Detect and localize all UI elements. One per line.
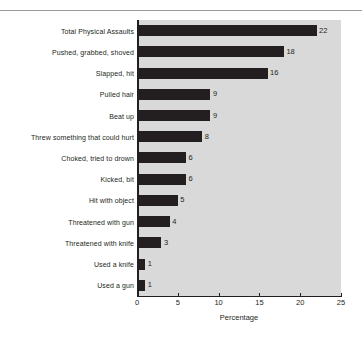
- x-tick-mark: [219, 293, 220, 297]
- bar: [137, 152, 186, 163]
- bar-row: Threatened with knife3: [0, 232, 362, 253]
- bar-row: Hit with object5: [0, 190, 362, 211]
- category-label: Slapped, hit: [96, 70, 134, 77]
- bar: [137, 259, 145, 270]
- bar-value-label: 6: [188, 175, 192, 183]
- x-tick-label: 10: [214, 299, 222, 307]
- bar: [137, 46, 284, 57]
- category-label: Pulled hair: [100, 91, 134, 98]
- bar-value-label: 16: [270, 69, 278, 77]
- bar-track: 3: [137, 232, 341, 253]
- category-label: Used a gun: [97, 282, 134, 289]
- bar-track: 4: [137, 211, 341, 232]
- category-label: Used a knife: [94, 261, 134, 268]
- bar: [137, 110, 210, 121]
- x-axis-title-text: Percentage: [220, 313, 258, 322]
- category-label: Pushed, grabbed, shoved: [52, 48, 134, 55]
- bar-track: 6: [137, 169, 341, 190]
- bar: [137, 25, 317, 36]
- bar-track: 8: [137, 126, 341, 147]
- bar-track: 18: [137, 41, 341, 62]
- category-label: Choked, tried to drown: [61, 154, 134, 161]
- chart-figure: Total Physical Assaults22Pushed, grabbed…: [0, 0, 362, 352]
- bar-value-label: 22: [319, 27, 327, 35]
- x-tick-mark: [300, 293, 301, 297]
- bar-row: Kicked, bit6: [0, 169, 362, 190]
- bar-row: Total Physical Assaults22: [0, 20, 362, 41]
- bar-value-label: 4: [172, 218, 176, 226]
- x-axis-title: Percentage: [0, 314, 362, 322]
- bar-value-label: 18: [286, 48, 294, 56]
- bar-row: Beat up9: [0, 105, 362, 126]
- category-label: Beat up: [109, 112, 134, 119]
- bar-value-label: 1: [148, 282, 152, 290]
- bar-value-label: 5: [180, 197, 184, 205]
- x-tick-mark: [137, 293, 138, 297]
- bar-value-label: 8: [205, 133, 209, 141]
- bar: [137, 280, 145, 291]
- bar-row: Pulled hair9: [0, 84, 362, 105]
- bar-value-label: 1: [148, 260, 152, 268]
- bar-value-label: 6: [188, 154, 192, 162]
- bar-value-label: 3: [164, 239, 168, 247]
- category-label: Total Physical Assaults: [61, 27, 134, 34]
- bar-track: 9: [137, 84, 341, 105]
- bar-track: 9: [137, 105, 341, 126]
- category-label: Kicked, bit: [101, 176, 134, 183]
- x-tick-label: 25: [337, 299, 345, 307]
- bar-row: Used a knife1: [0, 254, 362, 275]
- top-divider-rule: [0, 10, 362, 11]
- bar: [137, 237, 161, 248]
- bar-row: Pushed, grabbed, shoved18: [0, 41, 362, 62]
- category-label: Threatened with knife: [65, 239, 134, 246]
- bar: [137, 216, 170, 227]
- bar-track: 5: [137, 190, 341, 211]
- bar: [137, 68, 268, 79]
- category-label: Threw something that could hurt: [31, 133, 134, 140]
- bar: [137, 89, 210, 100]
- x-tick-mark: [178, 293, 179, 297]
- bar: [137, 131, 202, 142]
- x-tick-mark: [259, 293, 260, 297]
- bar-track: 6: [137, 147, 341, 168]
- bar-track: 16: [137, 62, 341, 83]
- bar-row: Threw something that could hurt8: [0, 126, 362, 147]
- bar: [137, 195, 178, 206]
- bar-value-label: 9: [213, 112, 217, 120]
- category-label: Hit with object: [89, 197, 134, 204]
- bar-track: 1: [137, 275, 341, 296]
- bar-track: 22: [137, 20, 341, 41]
- x-tick-label: 15: [255, 299, 263, 307]
- x-tick-label: 20: [296, 299, 304, 307]
- bar-track: 1: [137, 254, 341, 275]
- bar-row: Slapped, hit16: [0, 62, 362, 83]
- x-tick-mark: [341, 293, 342, 297]
- category-label: Threatened with gun: [68, 218, 134, 225]
- bar-row: Used a gun1: [0, 275, 362, 296]
- bar-row: Threatened with gun4: [0, 211, 362, 232]
- x-tick-label: 5: [176, 299, 180, 307]
- bar-value-label: 9: [213, 91, 217, 99]
- bar: [137, 174, 186, 185]
- bar-row: Choked, tried to drown6: [0, 147, 362, 168]
- x-tick-label: 0: [135, 299, 139, 307]
